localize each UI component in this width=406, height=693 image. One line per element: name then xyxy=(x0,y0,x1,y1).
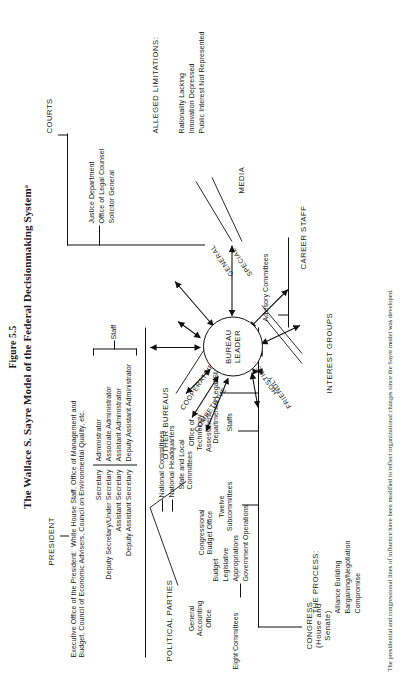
career-staff-tick xyxy=(278,314,288,315)
president-dept-title-2: Deputy Secretary/Under Secretary xyxy=(105,469,113,617)
node-media-label: MEDIA xyxy=(238,166,247,193)
president-dept-title-4: Deputy Assistant Secretary xyxy=(125,469,133,597)
president-staff-brace-label: Staff xyxy=(110,324,118,339)
limitations-item-3: Public Interest Not Represented xyxy=(198,31,206,133)
process-item-1: Alliance Building xyxy=(334,560,342,613)
courts-tick xyxy=(58,134,67,135)
node-career-staff-label: CAREER STAFF xyxy=(300,205,309,269)
president-title-divider xyxy=(93,464,137,465)
node-courts-label: COURTS xyxy=(46,98,55,133)
courts-item-3: Solicitor General xyxy=(108,170,116,223)
staff-brace-bottom xyxy=(136,348,137,355)
president-dept-title-3: Assistant Secretary xyxy=(115,469,123,583)
bureau-leader-hub: BUREAU LEADER xyxy=(203,316,263,376)
congress-tick xyxy=(258,626,302,627)
node-president-label: PRESIDENT xyxy=(48,517,57,565)
congress-committee-4: Government Operations xyxy=(242,504,250,581)
congress-committee-2: Legislative xyxy=(222,547,230,581)
political-parties-tick-2 xyxy=(172,499,173,511)
president-staff-title-2: Associate Administrator xyxy=(105,386,113,461)
courts-item-1: Justice Department xyxy=(88,161,96,223)
ota-tick xyxy=(220,392,258,393)
figure-title: The Wallace S. Sayre Model of the Federa… xyxy=(21,0,34,693)
node-political-parties-label: POLITICAL PARTIES xyxy=(166,579,175,661)
node-interest-groups-label: INTEREST GROUPS xyxy=(326,312,335,393)
subcommittees-tick xyxy=(242,504,258,505)
president-trunk-horizontal xyxy=(145,327,146,657)
political-parties-item-2: National Headquarters xyxy=(168,425,176,497)
hub-line-1: BUREAU xyxy=(224,329,233,363)
process-item-2: Bargaining/Negotiation xyxy=(344,540,352,613)
congress-committee-3: Appropriations xyxy=(232,535,240,581)
president-eop-text: Executive Office of the President: White… xyxy=(70,400,87,657)
president-staff-title-4: Deputy Assistant Administrator xyxy=(125,363,133,461)
president-staff-title-3: Assistant Administrator xyxy=(115,388,123,461)
limitations-item-2: Innovation Depressed xyxy=(188,63,196,133)
limitations-item-1: Rationality Lacking xyxy=(178,73,186,134)
president-dept-title-1: Secretary xyxy=(95,469,103,565)
political-parties-tick-1 xyxy=(162,499,163,511)
congress-cbo: Congressional Budget Office xyxy=(198,493,215,571)
political-parties-item-1: National Committees xyxy=(158,430,166,497)
hub-line-2: LEADER xyxy=(233,329,242,362)
staffs-tick xyxy=(238,430,258,431)
node-congress-label: CONGRESS (House and Senate) xyxy=(306,577,333,673)
political-parties-item-3: State and Local Committees xyxy=(178,439,195,489)
congress-trunk-horizontal xyxy=(258,327,259,627)
limitations-heading: ALLEGED LIMITATIONS: xyxy=(152,36,161,133)
relation-general-label: GENERAL xyxy=(208,243,235,278)
staff-brace-stem xyxy=(114,340,115,349)
staff-brace-vertical xyxy=(93,348,137,349)
career-staff-trunk xyxy=(288,237,289,327)
process-item-3: Compromise xyxy=(354,572,362,613)
courts-trunk-vertical xyxy=(67,244,205,245)
courts-branch-tick xyxy=(99,225,100,245)
president-staff-title-1: Administrator xyxy=(95,419,103,461)
figure-footnote: The presidential and congressional lines… xyxy=(386,11,394,671)
president-tick xyxy=(60,535,69,536)
figure-number: Figure 5.5 xyxy=(8,0,19,693)
figure-page: Figure 5.5 The Wallace S. Sayre Model of… xyxy=(0,0,406,693)
staff-brace-top xyxy=(93,348,94,355)
congress-eight-committees: Eight Committees xyxy=(232,612,240,669)
congress-staffs: Staffs xyxy=(226,413,234,431)
congress-committee-tick xyxy=(240,583,241,597)
congress-gao: General Accounting Office xyxy=(188,579,213,657)
congress-twelve-subcommittees: Twelve Subcommittees xyxy=(218,471,235,541)
career-staff-item: Advisory Committees xyxy=(262,253,270,321)
courts-trunk-horizontal xyxy=(67,133,68,245)
courts-item-2: Office of Legal Counsel xyxy=(98,148,106,223)
